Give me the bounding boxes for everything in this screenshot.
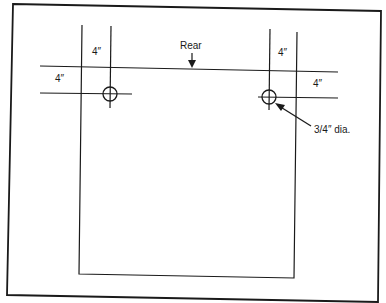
hole-diameter-label: 3/4″ dia. <box>314 124 350 135</box>
right-hole-vertical-guide <box>269 29 270 110</box>
diameter-leader-line <box>279 106 311 126</box>
left-hole-horizontal-guide <box>40 93 132 94</box>
right-side-offset-label: 4″ <box>313 78 323 89</box>
right-top-offset-label: 4″ <box>278 47 288 58</box>
diameter-arrow-icon <box>275 103 285 111</box>
rear-label: Rear <box>180 40 202 51</box>
drill-template-diagram: Rear 4″ 4″ 4″ 4″ 3/4″ dia. <box>0 0 386 303</box>
rear-reference-line <box>40 66 338 72</box>
rear-arrow-icon <box>188 60 196 68</box>
left-top-offset-label: 4″ <box>92 46 102 57</box>
left-side-offset-label: 4″ <box>55 73 65 84</box>
right-hole-horizontal-guide <box>258 97 338 98</box>
panel-outline <box>79 25 297 278</box>
